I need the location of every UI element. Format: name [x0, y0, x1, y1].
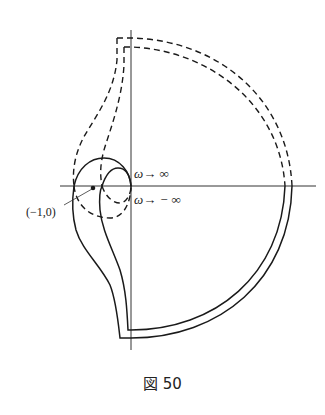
figure-caption: 図 50: [0, 372, 325, 393]
solid-inner-path: [100, 168, 285, 330]
label-omega-neg-infinity: ω→ − ∞: [134, 192, 181, 207]
dashed-inner-path: [101, 47, 285, 186]
solid-outer-path: [73, 158, 292, 338]
solid-contour: [73, 158, 292, 338]
dashed-contour: [73, 38, 292, 218]
label-omega-pos-infinity: ω→ ∞: [134, 166, 169, 181]
nyquist-diagram-figure: ω→ ∞ ω→ − ∞ (−1,0): [0, 0, 325, 415]
dashed-loop-small: [102, 186, 131, 203]
axes: [60, 30, 316, 350]
critical-point-leader: [64, 189, 92, 205]
critical-point-marker: [64, 186, 95, 205]
dashed-loop-large: [74, 186, 131, 218]
label-critical-point: (−1,0): [26, 205, 56, 219]
